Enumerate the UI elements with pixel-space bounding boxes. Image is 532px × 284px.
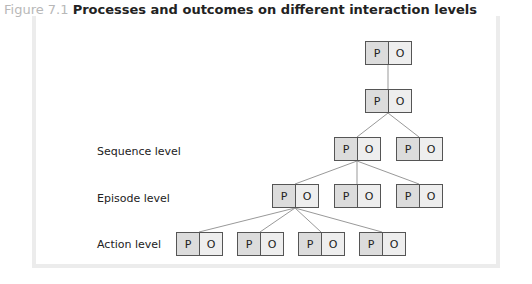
node-mid: P O bbox=[365, 89, 412, 113]
outcome-cell: O bbox=[261, 233, 283, 255]
node-episode-2: P O bbox=[334, 184, 381, 208]
process-cell: P bbox=[299, 233, 322, 255]
node-action-1: P O bbox=[176, 232, 223, 256]
outcome-cell: O bbox=[420, 138, 442, 160]
node-sequence-2: P O bbox=[396, 137, 443, 161]
label-episode-level: Episode level bbox=[97, 192, 170, 205]
process-cell: P bbox=[335, 138, 358, 160]
node-episode-3: P O bbox=[396, 184, 443, 208]
outcome-cell: O bbox=[296, 185, 318, 207]
process-cell: P bbox=[366, 90, 389, 112]
process-cell: P bbox=[360, 233, 383, 255]
process-cell: P bbox=[177, 233, 200, 255]
node-root: P O bbox=[365, 41, 412, 65]
process-cell: P bbox=[238, 233, 261, 255]
node-action-2: P O bbox=[237, 232, 284, 256]
process-cell: P bbox=[397, 138, 420, 160]
outcome-cell: O bbox=[322, 233, 344, 255]
outcome-cell: O bbox=[389, 42, 411, 64]
node-sequence-1: P O bbox=[334, 137, 381, 161]
node-episode-1: P O bbox=[272, 184, 319, 208]
process-cell: P bbox=[366, 42, 389, 64]
node-action-4: P O bbox=[359, 232, 406, 256]
outcome-cell: O bbox=[420, 185, 442, 207]
label-sequence-level: Sequence level bbox=[97, 145, 181, 158]
process-cell: P bbox=[273, 185, 296, 207]
outcome-cell: O bbox=[358, 138, 380, 160]
label-action-level: Action level bbox=[97, 238, 161, 251]
outcome-cell: O bbox=[358, 185, 380, 207]
outcome-cell: O bbox=[383, 233, 405, 255]
node-action-3: P O bbox=[298, 232, 345, 256]
outcome-cell: O bbox=[200, 233, 222, 255]
process-cell: P bbox=[335, 185, 358, 207]
outcome-cell: O bbox=[389, 90, 411, 112]
process-cell: P bbox=[397, 185, 420, 207]
